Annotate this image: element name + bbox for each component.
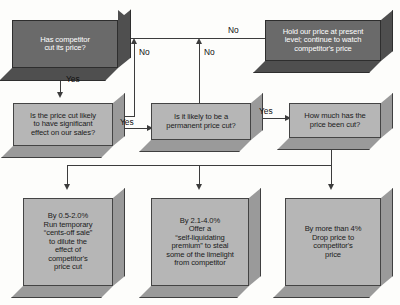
node-hold-our-price-label: Hold our price at present level; continu… <box>281 28 366 54</box>
start-box-bottom-face <box>0 68 118 81</box>
arrowhead-outcome-low <box>64 184 70 190</box>
node-is-permanent-price-cut-label: Is it likely to be a permanent price cut… <box>164 113 237 130</box>
arrowhead-start-yes <box>57 92 63 98</box>
arrowhead-outcome-mid <box>196 184 202 190</box>
permanent-box-depth <box>251 93 263 140</box>
edge-label-permanent-yes: Yes <box>259 106 273 116</box>
connector-outcome-high-drop <box>331 165 332 186</box>
outcome-mid-box-bottom-face <box>139 286 249 298</box>
connector-outcome-low-drop <box>67 165 68 186</box>
outcome-low-box-depth <box>113 188 125 286</box>
edge-label-permanent-no: No <box>204 47 215 57</box>
edge-label-significant-no: No <box>139 47 150 57</box>
holdprice-box-bottom-face <box>253 61 381 73</box>
edge-label-significant-yes: Yes <box>120 117 134 127</box>
start-box-depth <box>118 9 131 68</box>
edge-label-start-no: No <box>228 25 239 35</box>
node-outcome-high-label: By more than 4% Drop price to competitor… <box>303 225 364 259</box>
flowchart-canvas: Has competitor cut its price? Hold our p… <box>0 0 400 305</box>
node-outcome-low-label: By 0.5-2.0% Run temporary “cents-off sal… <box>42 212 95 272</box>
node-outcome-high[interactable]: By more than 4% Drop price to competitor… <box>285 198 381 286</box>
connector-permanent-no-riser <box>199 44 200 106</box>
node-is-price-cut-significant-label: Is the price cut likely to have signific… <box>28 112 98 138</box>
outcome-high-box-depth <box>381 188 393 286</box>
edge-label-start-yes: Yes <box>66 74 80 84</box>
outcome-high-box-bottom-face <box>273 286 381 298</box>
outcome-low-box-bottom-face <box>11 286 113 298</box>
node-outcome-low[interactable]: By 0.5-2.0% Run temporary “cents-off sal… <box>23 198 113 286</box>
howmuch-box-bottom-face <box>277 138 381 150</box>
node-is-price-cut-significant[interactable]: Is the price cut likely to have signific… <box>13 103 113 146</box>
arrowhead-permanent-no <box>196 38 202 44</box>
node-is-permanent-price-cut[interactable]: Is it likely to be a permanent price cut… <box>151 103 251 140</box>
connector-top-bus <box>118 38 268 39</box>
arrowhead-significant-no <box>131 38 137 44</box>
outcome-mid-box-depth <box>249 188 261 286</box>
connector-outcome-mid-drop <box>199 165 200 186</box>
node-has-competitor-cut-price[interactable]: Has competitor cut its price? <box>12 20 118 68</box>
howmuch-box-depth <box>381 93 393 138</box>
significant-box-bottom-face <box>1 146 113 158</box>
holdprice-box-depth <box>381 10 393 61</box>
node-how-much-price-cut[interactable]: How much has the price been cut? <box>289 103 381 138</box>
permanent-box-bottom-face <box>139 140 251 152</box>
node-how-much-price-cut-label: How much has the price been cut? <box>302 112 367 129</box>
node-hold-our-price[interactable]: Hold our price at present level; continu… <box>265 20 381 61</box>
node-has-competitor-cut-price-label: Has competitor cut its price? <box>38 36 92 53</box>
connector-significant-no-riser <box>134 44 135 116</box>
node-outcome-mid-label: By 2.1-4.0% Offer a “self-liquidating pr… <box>164 217 236 268</box>
node-outcome-mid[interactable]: By 2.1-4.0% Offer a “self-liquidating pr… <box>151 198 249 286</box>
arrowhead-outcome-high <box>328 184 334 190</box>
